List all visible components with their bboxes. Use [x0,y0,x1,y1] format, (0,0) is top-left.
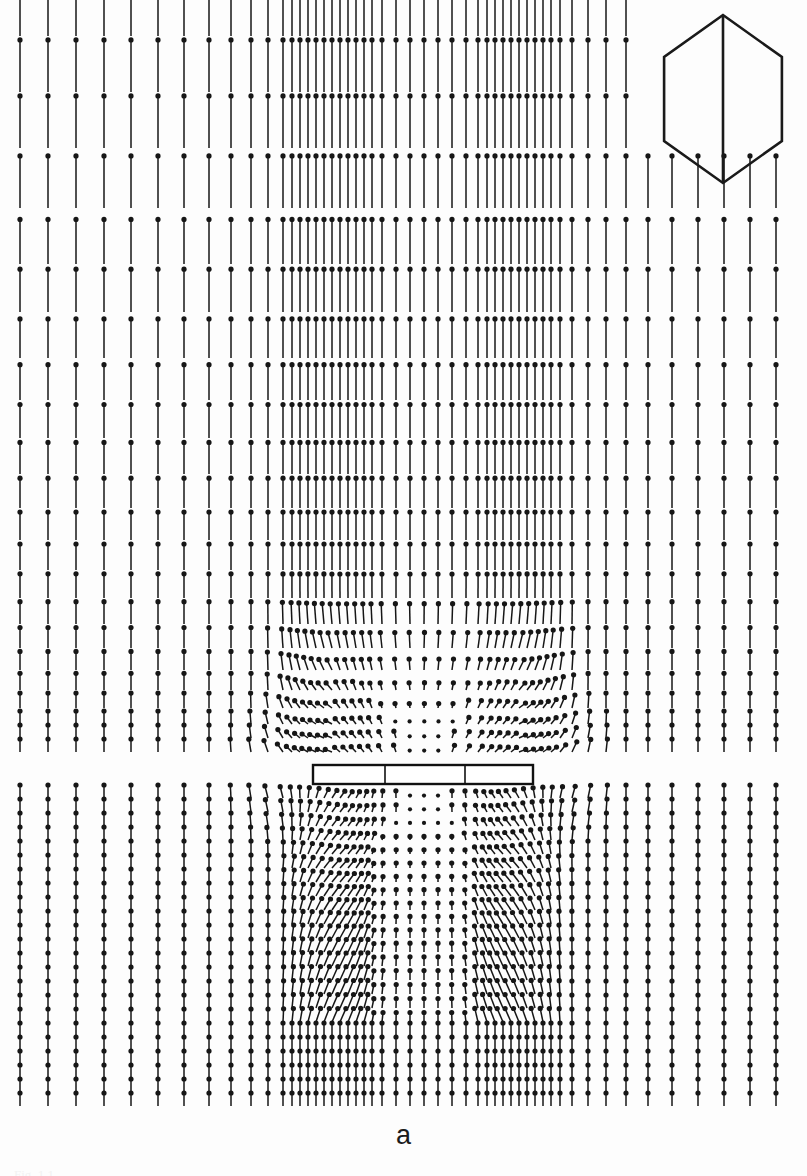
velocity-vector [436,794,440,798]
velocity-vector [422,719,426,723]
plate-outline [313,765,533,784]
flat-plate-obstacle [313,765,533,784]
velocity-vector [393,719,397,723]
velocity-vector [451,719,455,723]
velocity-vector [408,749,412,753]
velocity-vector [408,807,412,811]
figure-panel: a Fig. 1.1 [0,0,807,1176]
velocity-vector [436,821,440,825]
velocity-vector [408,734,412,738]
velocity-vector [422,821,426,825]
velocity-vector [408,821,412,825]
plot-background [0,0,807,1176]
velocity-vector [422,807,426,811]
velocity-vector [394,821,398,825]
velocity-vector [436,807,440,811]
velocity-vector [422,749,426,753]
velocity-vector [436,734,440,738]
velocity-vector [436,719,440,723]
velocity-vector-field-plot [0,0,807,1176]
velocity-vector [450,821,454,825]
velocity-vector [408,719,412,723]
panel-label: a [0,1118,807,1152]
velocity-vector [422,734,426,738]
velocity-vector [436,749,440,753]
clipped-caption: Fig. 1.1 [14,1167,264,1176]
velocity-vector [422,794,426,798]
velocity-vector [408,794,412,798]
